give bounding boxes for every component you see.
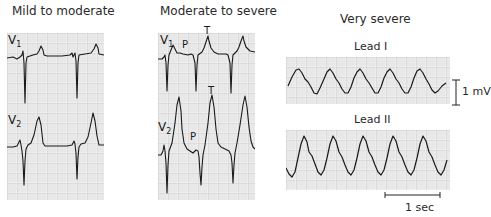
lead-title-lead-i: Lead I (354, 40, 387, 53)
amplitude-scale-bar (450, 78, 462, 108)
wave-label-t: T (204, 25, 210, 36)
wave-label-p: P (182, 39, 188, 50)
time-scale-label: 1 sec (405, 201, 434, 214)
ecg-trace-moderate-to-severe (158, 33, 255, 200)
lead-label-v1: V1 (160, 33, 173, 49)
ecg-trace-lead-i (286, 57, 450, 104)
lead-label-v1: V1 (8, 33, 21, 49)
panel-title-mild-to-moderate: Mild to moderate (12, 4, 115, 18)
lead-label-v2: V2 (158, 120, 171, 136)
ecg-panel-moderate-to-severe: V1 P T V2 T P (158, 33, 255, 200)
wave-label-t: T (208, 85, 214, 96)
lead-label-v2: V2 (8, 113, 21, 129)
ecg-trace-mild-to-moderate (7, 33, 104, 200)
ecg-panel-lead-i (286, 57, 450, 104)
panel-title-very-severe: Very severe (340, 12, 411, 26)
time-scale-bar (384, 190, 442, 200)
ecg-panel-mild-to-moderate: V1 V2 (7, 33, 104, 200)
panel-title-moderate-to-severe: Moderate to severe (160, 4, 277, 18)
ecg-trace-lead-ii (286, 130, 450, 190)
ecg-panel-lead-ii (286, 130, 450, 190)
lead-title-lead-ii: Lead II (354, 113, 390, 126)
wave-label-p: P (190, 131, 196, 142)
amplitude-scale-label: 1 mV (462, 85, 491, 98)
